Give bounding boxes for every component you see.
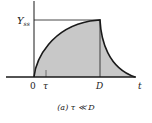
caption: (a) τ ≪ D	[57, 103, 95, 112]
zero-label: 0	[30, 81, 36, 91]
d-label: D	[95, 81, 103, 91]
step-response-chart: Yss 0 τ D t (a) τ ≪ D	[0, 0, 152, 123]
yss-label: Yss	[17, 15, 30, 27]
tau-label: τ	[43, 81, 49, 91]
t-label: t	[138, 81, 142, 91]
